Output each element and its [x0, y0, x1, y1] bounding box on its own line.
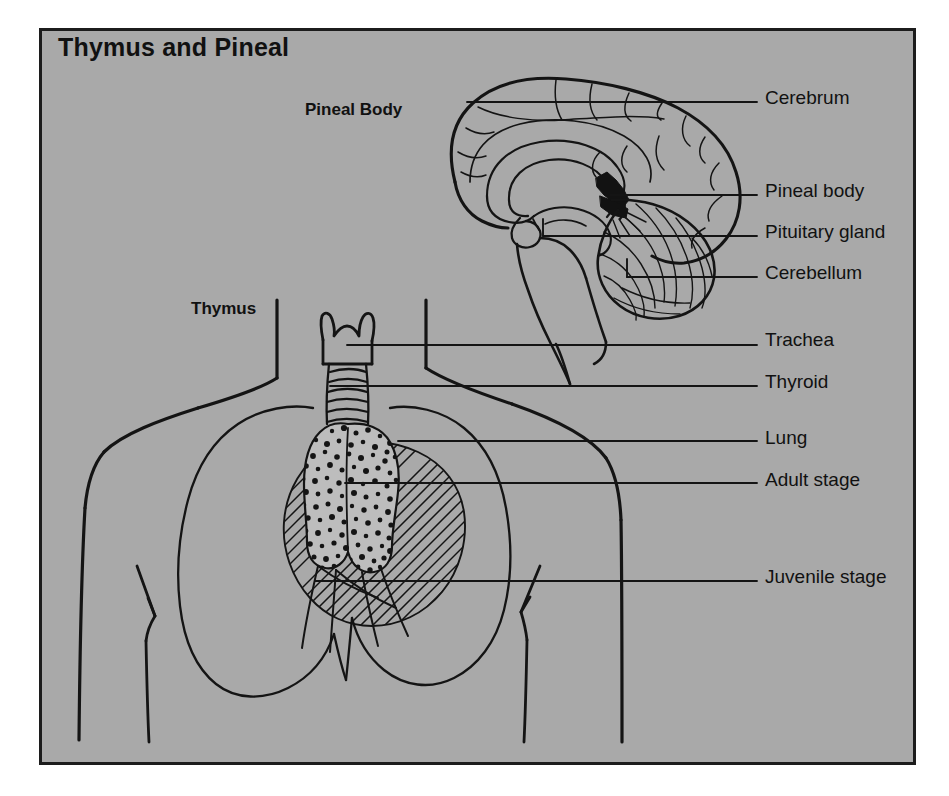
callout-label-cerebrum: Cerebrum [765, 88, 849, 107]
callout-label-pineal-body: Pineal body [765, 181, 864, 200]
callout-label-cerebellum: Cerebellum [765, 263, 862, 282]
diagram-panel [39, 28, 916, 765]
callout-label-thyroid: Thyroid [765, 372, 828, 391]
figure-plate: Thymus and Pineal Pineal Body Thymus [0, 0, 949, 796]
callout-label-pituitary-gland: Pituitary gland [765, 222, 885, 241]
callout-label-adult-stage: Adult stage [765, 470, 860, 489]
section-heading-pineal: Pineal Body [305, 100, 402, 120]
section-heading-thymus: Thymus [191, 299, 256, 319]
callout-label-lung: Lung [765, 428, 807, 447]
callout-label-trachea: Trachea [765, 330, 834, 349]
page-title: Thymus and Pineal [58, 33, 289, 62]
callout-label-juvenile-stage: Juvenile stage [765, 567, 886, 586]
